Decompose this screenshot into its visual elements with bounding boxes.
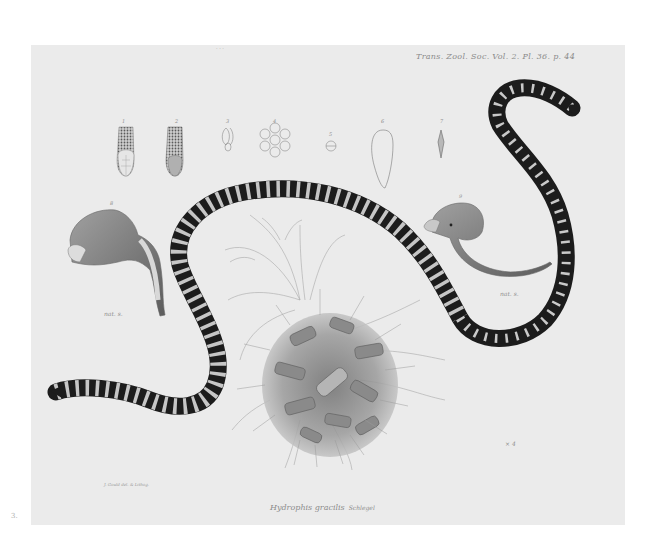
scale-note: nat. s. — [104, 310, 123, 317]
plate-caption: Hydrophis gracilisSchlegel — [270, 503, 375, 512]
figure-scale-rosette — [260, 123, 290, 157]
figure-label: 6 — [381, 118, 384, 124]
figure-head-dorsal — [117, 127, 134, 176]
figure-head-side-left — [68, 210, 165, 316]
figure-single-scale — [326, 141, 336, 151]
plate-illustration — [0, 0, 667, 553]
figure-label: 2 — [175, 118, 178, 124]
figure-ventral-plate — [372, 130, 393, 188]
caption-authority: Schlegel — [349, 504, 375, 511]
figure-scale-detail — [222, 128, 233, 151]
figure-label: 4 — [273, 118, 276, 124]
figure-label: 1 — [122, 118, 125, 124]
figure-label: 9 — [459, 193, 462, 199]
plate-number: 3. — [11, 512, 18, 520]
figure-head-lateral — [166, 127, 183, 176]
figure-head-side-right — [424, 203, 552, 277]
header-reference: Trans. Zool. Soc. Vol. 2. Pl. 36. p. 44 — [416, 52, 575, 61]
scale-note: nat. s. — [500, 290, 519, 297]
figure-label: 3 — [226, 118, 229, 124]
artist-credit: J. Gould del. & Lithog. — [104, 482, 149, 487]
caption-species: Hydrophis gracilis — [270, 503, 345, 512]
top-marks: · · · — [216, 45, 224, 51]
figure-label: 5 — [329, 131, 332, 137]
figure-tooth — [438, 130, 444, 158]
figure-label: 7 — [440, 118, 443, 124]
scale-note: × 4 — [505, 440, 516, 447]
figure-label: 8 — [110, 200, 113, 206]
